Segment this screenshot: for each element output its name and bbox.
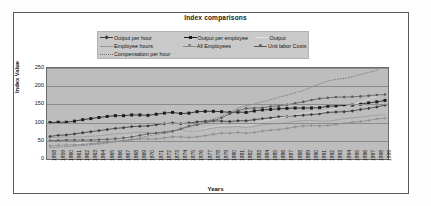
- legend-marker-circle-icon: [254, 43, 267, 50]
- x-axis-tick-label: 1976: [198, 150, 204, 161]
- x-axis-tick-label: 1959: [60, 150, 66, 161]
- legend-row: Employee hours All Employees Unit labor …: [100, 42, 306, 50]
- gridlines: [47, 68, 388, 159]
- gridline: [47, 123, 388, 124]
- x-axis-tick-label: 1981: [239, 150, 245, 161]
- x-axis: 1958195919601961196219631964196519661967…: [46, 161, 389, 187]
- x-axis-tick-label: 1990: [313, 150, 319, 161]
- x-axis-tick-label: 1999: [386, 150, 392, 161]
- x-axis-tick-label: 1967: [125, 150, 131, 161]
- x-axis-tick-label: 1996: [362, 150, 368, 161]
- legend-row: Compensation per hour: [100, 50, 306, 58]
- legend-item-output-per-hour: Output per hour: [100, 34, 184, 41]
- x-axis-tick-label: 1980: [231, 150, 237, 161]
- legend-item-employee-hours: Employee hours: [100, 43, 183, 50]
- x-axis-tick-label: 1965: [109, 150, 115, 161]
- legend-item-all-employees: All Employees: [183, 43, 254, 50]
- x-axis-tick-label: 1995: [354, 150, 360, 161]
- x-axis-tick-label: 1960: [68, 150, 74, 161]
- chart-title: Index comparisons: [0, 14, 431, 21]
- gridline: [47, 141, 388, 142]
- x-axis-tick-label: 1985: [272, 150, 278, 161]
- x-axis-tick-label: 1973: [174, 150, 180, 161]
- plot-area: [46, 67, 389, 160]
- x-axis-tick-label: 1975: [190, 150, 196, 161]
- y-axis: 050100150200250: [26, 60, 46, 168]
- x-axis-tick-label: 1998: [378, 150, 384, 161]
- legend-marker-diamond-icon: [100, 34, 113, 41]
- x-axis-tick-label: 1977: [207, 150, 213, 161]
- x-axis-tick-label: 1991: [321, 150, 327, 161]
- legend-item-output: Output: [255, 34, 306, 41]
- legend-label: Unit labor Costs: [268, 43, 306, 49]
- legend-label: Compensation per hour: [114, 51, 170, 57]
- x-axis-tick-label: 1962: [84, 150, 90, 161]
- gridline: [47, 104, 388, 105]
- legend-label: All Employees: [197, 43, 231, 49]
- x-axis-tick-label: 1994: [346, 150, 352, 161]
- chart-figure: Index comparisons Output per hour Output…: [0, 0, 431, 206]
- legend-marker-square-icon: [184, 34, 197, 41]
- legend-label: Output: [269, 35, 285, 41]
- y-axis-tick-label: 200: [26, 82, 44, 88]
- x-axis-tick-label: 1986: [280, 150, 286, 161]
- y-axis-tick-label: 100: [26, 119, 44, 125]
- y-axis-tick-label: 250: [26, 64, 44, 70]
- legend-item-compensation-per-hour: Compensation per hour: [100, 51, 186, 58]
- x-axis-tick-label: 1978: [215, 150, 221, 161]
- legend-row: Output per hour Output per employee Outp…: [100, 34, 306, 42]
- legend-marker-plus-icon: [183, 43, 196, 50]
- gridline: [47, 68, 388, 69]
- legend-marker-dotted-line-icon: [100, 51, 113, 58]
- x-axis-tick-label: 1972: [166, 150, 172, 161]
- legend-marker-line-icon: [100, 43, 113, 50]
- x-axis-tick-label: 1979: [223, 150, 229, 161]
- chart-legend: Output per hour Output per employee Outp…: [97, 31, 309, 59]
- x-axis-tick-label: 1970: [149, 150, 155, 161]
- x-axis-tick-label: 1964: [100, 150, 106, 161]
- x-axis-tick-label: 1968: [133, 150, 139, 161]
- x-axis-tick-label: 1971: [158, 150, 164, 161]
- y-axis-tick-label: 150: [26, 100, 44, 106]
- gridline: [47, 86, 388, 87]
- legend-item-output-per-employee: Output per employee: [184, 34, 256, 41]
- legend-item-unit-labor-costs: Unit labor Costs: [254, 43, 306, 50]
- legend-label: Output per hour: [114, 35, 152, 41]
- legend-marker-line-icon: [255, 34, 268, 41]
- legend-label: Employee hours: [114, 43, 153, 49]
- x-axis-tick-label: 1992: [329, 150, 335, 161]
- x-axis-tick-label: 1961: [76, 150, 82, 161]
- x-axis-tick-label: 1974: [182, 150, 188, 161]
- x-axis-tick-label: 1958: [51, 150, 57, 161]
- x-axis-tick-label: 1997: [370, 150, 376, 161]
- x-axis-tick-label: 1988: [297, 150, 303, 161]
- y-axis-tick-label: 0: [26, 155, 44, 161]
- x-axis-title: Years: [0, 186, 431, 192]
- x-axis-tick-label: 1989: [305, 150, 311, 161]
- y-axis-tick-label: 50: [26, 137, 44, 143]
- x-axis-tick-label: 1983: [256, 150, 262, 161]
- y-axis-title: Index Value: [14, 61, 20, 93]
- legend-label: Output per employee: [198, 35, 248, 41]
- x-axis-tick-label: 1963: [92, 150, 98, 161]
- x-axis-tick-label: 1993: [337, 150, 343, 161]
- x-axis-tick-label: 1966: [117, 150, 123, 161]
- x-axis-tick-label: 1984: [264, 150, 270, 161]
- x-axis-tick-label: 1987: [288, 150, 294, 161]
- x-axis-tick-label: 1969: [141, 150, 147, 161]
- x-axis-tick-label: 1982: [247, 150, 253, 161]
